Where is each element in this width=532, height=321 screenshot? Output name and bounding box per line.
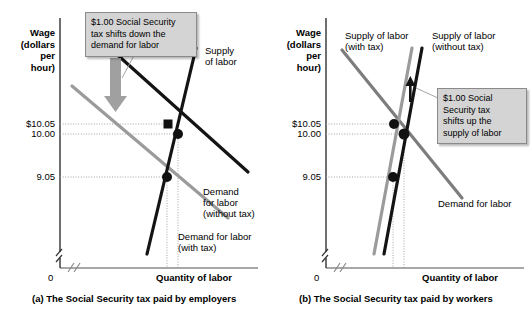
panel-b-y-axis-label: Wage (dollars per hour) [272, 27, 321, 73]
panel-a-tick-905: 9.05 [8, 171, 55, 182]
panel-b-label-demand: Demand for labor [438, 198, 511, 209]
panel-a-label-demand-without-tax: Demand for labor (without tax) [203, 186, 255, 219]
point-10-05 [164, 120, 173, 129]
panel-a-origin-label: 0 [48, 272, 53, 283]
panel-b-tick-905: 9.05 [274, 171, 321, 182]
panel-b-origin-label: 0 [314, 272, 319, 283]
point-10-00 [399, 129, 410, 140]
panel-a-tick-1000: 10.00 [8, 128, 55, 139]
panel-b-callout: $1.00 Social Security tax shifts up the … [437, 88, 527, 144]
point-10-00 [173, 129, 183, 139]
point-9-05 [162, 172, 172, 182]
curve-supply-of-labor [147, 48, 196, 254]
panel-b-workers: Wage (dollars per hour) $10.05 10.00 9.0… [266, 0, 532, 321]
axis-break-y [322, 249, 328, 262]
panel-b-caption: (b) The Social Security tax paid by work… [299, 293, 493, 304]
curve-supply-without-tax [384, 48, 422, 254]
panel-a-x-axis-label: Quantity of labor [156, 272, 232, 283]
panel-b-label-supply-without-tax: Supply of labor (without tax) [432, 30, 495, 52]
point-9-05 [388, 172, 398, 182]
tick-leader-lines [326, 124, 404, 268]
panel-a-employers: Wage (dollars per hour) $10.05 10.00 9.0… [0, 0, 266, 321]
panel-b-tick-1000: 10.00 [274, 128, 321, 139]
point-10-05 [389, 119, 399, 129]
panel-a-callout: $1.00 Social Security tax shifts down th… [85, 12, 197, 57]
callout-leader-line [416, 88, 438, 98]
panel-a-caption: (a) The Social Security tax paid by empl… [32, 293, 236, 304]
panel-a-y-axis-label: Wage (dollars per hour) [6, 27, 55, 73]
axis-break-y [56, 249, 62, 262]
panel-b-label-supply-with-tax: Supply of labor (with tax) [345, 30, 408, 52]
down-arrow-icon [104, 58, 127, 112]
curve-supply-with-tax [374, 48, 412, 254]
panel-a-label-demand-with-tax: Demand for labor (with tax) [178, 231, 251, 253]
panel-a-label-supply: Supply of labor [205, 45, 237, 67]
panel-b-x-axis-label: Quantity of labor [422, 272, 498, 283]
